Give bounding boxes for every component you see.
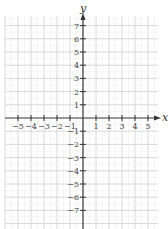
x-axis-ticks: −5−4−3−2−112345: [12, 115, 150, 131]
x-tick-label: 5: [145, 122, 150, 131]
y-tick-label: 3: [74, 74, 79, 83]
x-tick-label: 1: [93, 122, 98, 131]
x-tick-label: 3: [119, 122, 124, 131]
y-tick-label: −5: [67, 180, 79, 189]
x-tick-label: −4: [25, 122, 37, 131]
y-tick-label: 4: [74, 61, 79, 70]
x-tick-label: 4: [132, 122, 137, 131]
y-tick-label: −6: [67, 193, 79, 202]
y-tick-label: 2: [74, 88, 79, 97]
y-tick-label: −3: [67, 154, 79, 163]
y-tick-label: −1: [67, 127, 79, 136]
x-tick-label: −3: [38, 122, 50, 131]
y-tick-label: 7: [74, 22, 79, 31]
y-tick-label: −7: [67, 206, 79, 215]
x-tick-label: −2: [51, 122, 63, 131]
y-tick-label: 6: [74, 35, 79, 44]
x-tick-label: 2: [106, 122, 111, 131]
coordinate-plane: −5−4−3−2−112345 7654321−1−2−3−4−5−6−7 x …: [0, 0, 168, 229]
x-tick-label: −5: [12, 122, 24, 131]
x-axis-arrow-icon: [154, 116, 161, 121]
y-tick-label: 1: [74, 101, 79, 110]
x-axis-label: x: [162, 111, 168, 124]
y-axis-label: y: [79, 2, 87, 15]
y-tick-label: 5: [74, 48, 79, 57]
y-tick-label: −4: [67, 167, 79, 176]
y-tick-label: −2: [67, 140, 79, 149]
